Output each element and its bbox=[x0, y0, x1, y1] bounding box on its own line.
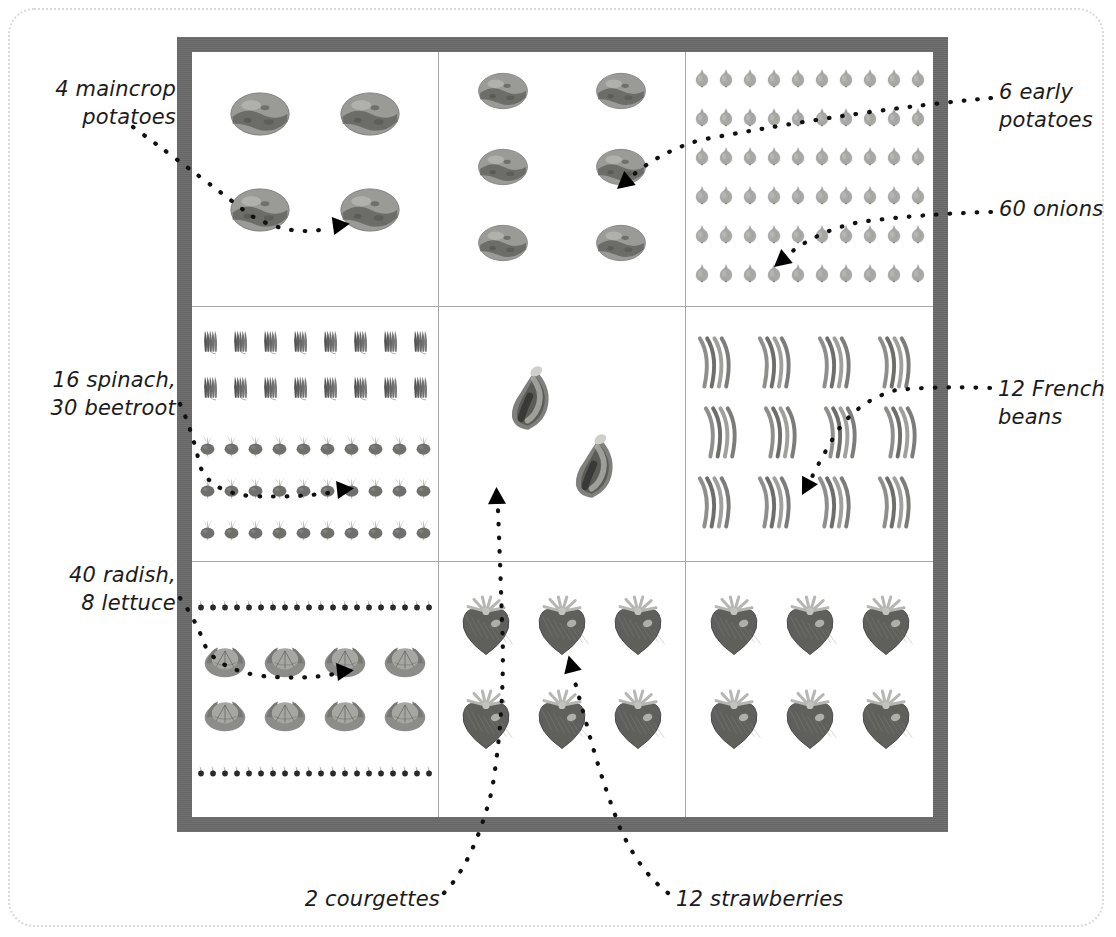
spinach-item bbox=[226, 318, 254, 362]
onion-icon bbox=[860, 140, 880, 172]
bean-cluster-icon bbox=[872, 329, 928, 397]
radish-icon bbox=[231, 758, 243, 784]
veg-row bbox=[692, 101, 928, 133]
label-spinach-beetroot: 16 spinach, 30 beetroot bbox=[14, 367, 176, 422]
label-maincrop-potatoes: 4 maincrop potatoes bbox=[26, 76, 176, 131]
radish-item bbox=[375, 592, 387, 618]
veg-row bbox=[467, 141, 657, 193]
strawberry-item bbox=[704, 596, 764, 658]
onion-item bbox=[836, 179, 856, 211]
beetroot-icon bbox=[268, 508, 291, 550]
onion-item bbox=[836, 101, 856, 133]
radish-item bbox=[243, 592, 255, 618]
veg-row bbox=[692, 469, 928, 537]
onion-item bbox=[860, 140, 880, 172]
radish-item bbox=[231, 758, 243, 784]
potato-icon bbox=[326, 83, 414, 145]
onion-item bbox=[716, 140, 736, 172]
plot-cell-strawberries-left[interactable] bbox=[439, 562, 686, 817]
plot-cell-french-beans[interactable] bbox=[686, 307, 933, 562]
onion-icon bbox=[908, 179, 928, 211]
beetroot-item bbox=[292, 424, 315, 466]
onion-icon bbox=[788, 257, 808, 289]
onion-icon bbox=[740, 218, 760, 250]
veg-icons-early-potatoes bbox=[439, 52, 685, 306]
plot-cell-courgettes[interactable] bbox=[439, 307, 686, 562]
veg-icons-spinach-beetroot bbox=[192, 307, 438, 561]
strawberry-icon bbox=[856, 690, 916, 752]
onion-icon bbox=[716, 218, 736, 250]
radish-item bbox=[315, 592, 327, 618]
onion-icon bbox=[692, 218, 712, 250]
potato-item bbox=[585, 217, 657, 269]
beetroot-icon bbox=[316, 508, 339, 550]
plot-cell-radish-lettuce[interactable] bbox=[192, 562, 439, 817]
beetroot-item bbox=[388, 466, 411, 508]
onion-icon bbox=[836, 140, 856, 172]
strawberry-item bbox=[608, 596, 668, 658]
onion-icon bbox=[908, 140, 928, 172]
plot-cell-early-potatoes[interactable] bbox=[439, 52, 686, 307]
onion-item bbox=[764, 257, 784, 289]
radish-icon bbox=[411, 758, 423, 784]
veg-icons-strawberries-right bbox=[686, 562, 933, 817]
beetroot-item bbox=[412, 424, 435, 466]
label-onions: 60 onions bbox=[999, 196, 1116, 224]
veg-group-beetroot bbox=[192, 424, 438, 550]
onion-item bbox=[764, 101, 784, 133]
veg-group-radish bbox=[192, 758, 438, 788]
veg-group-lettuce bbox=[192, 636, 438, 744]
spinach-item bbox=[196, 364, 224, 408]
beetroot-item bbox=[196, 508, 219, 550]
onion-icon bbox=[860, 218, 880, 250]
beetroot-icon bbox=[244, 466, 267, 508]
onion-item bbox=[836, 218, 856, 250]
beetroot-item bbox=[244, 466, 267, 508]
beetroot-item bbox=[316, 466, 339, 508]
onion-icon bbox=[836, 62, 856, 94]
potato-icon bbox=[585, 217, 657, 269]
radish-icon bbox=[387, 592, 399, 618]
bean-cluster-item bbox=[692, 469, 748, 537]
strawberry-item bbox=[532, 596, 592, 658]
spinach-item bbox=[406, 318, 434, 362]
radish-icon bbox=[399, 592, 411, 618]
potato-item bbox=[467, 65, 539, 117]
plot-cell-maincrop-potatoes[interactable] bbox=[192, 52, 439, 307]
veg-icons-radish-lettuce bbox=[192, 562, 438, 817]
beetroot-icon bbox=[364, 466, 387, 508]
beetroot-icon bbox=[196, 508, 219, 550]
plot-cell-onions[interactable] bbox=[686, 52, 933, 307]
plot-cell-spinach-beetroot[interactable] bbox=[192, 307, 439, 562]
onion-icon bbox=[860, 179, 880, 211]
onion-icon bbox=[764, 62, 784, 94]
radish-icon bbox=[339, 758, 351, 784]
onion-icon bbox=[884, 62, 904, 94]
bean-cluster-icon bbox=[872, 469, 928, 537]
onion-item bbox=[740, 218, 760, 250]
onion-item bbox=[812, 140, 832, 172]
plot-cell-strawberries-right[interactable] bbox=[686, 562, 933, 817]
veg-row bbox=[201, 690, 429, 734]
onion-item bbox=[860, 62, 880, 94]
beetroot-icon bbox=[268, 424, 291, 466]
spinach-item bbox=[346, 364, 374, 408]
onion-icon bbox=[788, 62, 808, 94]
potato-icon bbox=[467, 141, 539, 193]
potato-item bbox=[585, 65, 657, 117]
radish-icon bbox=[267, 592, 279, 618]
onion-item bbox=[860, 218, 880, 250]
onion-icon bbox=[884, 101, 904, 133]
radish-item bbox=[411, 758, 423, 784]
veg-row bbox=[692, 329, 928, 397]
spinach-icon bbox=[196, 318, 224, 362]
onion-item bbox=[692, 140, 712, 172]
beetroot-item bbox=[412, 466, 435, 508]
onion-item bbox=[908, 179, 928, 211]
radish-icon bbox=[195, 592, 207, 618]
spinach-item bbox=[256, 364, 284, 408]
beetroot-item bbox=[268, 424, 291, 466]
radish-icon bbox=[375, 758, 387, 784]
strawberry-item bbox=[780, 596, 840, 658]
radish-icon bbox=[243, 592, 255, 618]
